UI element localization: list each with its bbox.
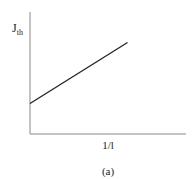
- chart: Jth 1/l (a): [0, 0, 193, 179]
- data-line: [30, 43, 128, 104]
- y-axis-label: Jth: [12, 22, 23, 39]
- y-axis-label-subscript: th: [17, 28, 23, 37]
- x-axis-label: 1/l: [0, 139, 193, 151]
- chart-svg: [0, 0, 193, 179]
- figure-caption: (a): [0, 165, 193, 177]
